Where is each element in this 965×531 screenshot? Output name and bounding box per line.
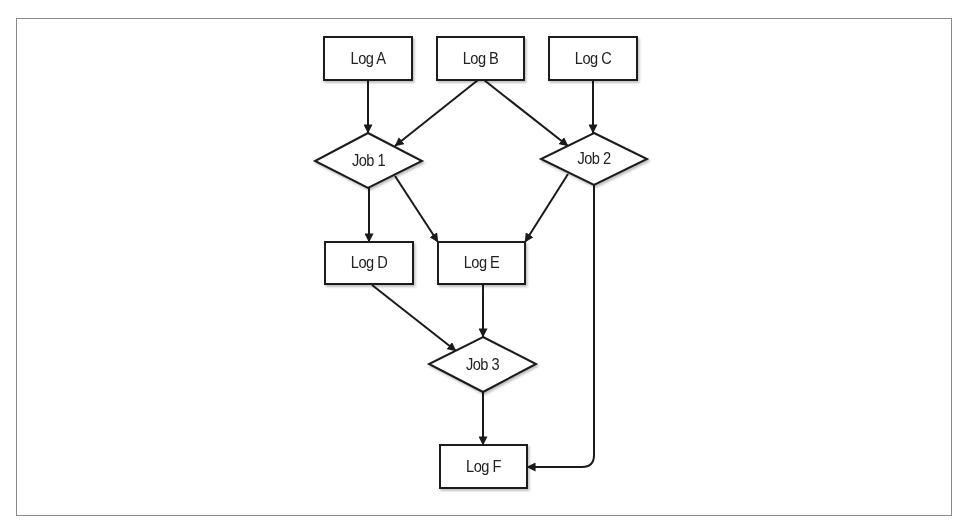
nodes [315, 37, 647, 488]
node-log-b [437, 37, 524, 80]
node-log-a [324, 37, 412, 80]
node-log-e [438, 242, 525, 284]
edge-job1-loge [395, 176, 438, 242]
edge-logd-job3 [372, 285, 456, 351]
node-job-2 [541, 133, 647, 185]
node-log-f [440, 445, 527, 488]
edge-logb-job1 [395, 80, 478, 146]
flow-diagram [0, 0, 965, 531]
edge-job2-logf [527, 185, 594, 467]
edge-job2-loge [525, 174, 568, 242]
edge-logb-job2 [484, 80, 568, 146]
node-job-1 [315, 133, 422, 188]
node-log-d [325, 242, 413, 284]
node-job-3 [429, 337, 536, 392]
node-log-c [549, 37, 637, 80]
